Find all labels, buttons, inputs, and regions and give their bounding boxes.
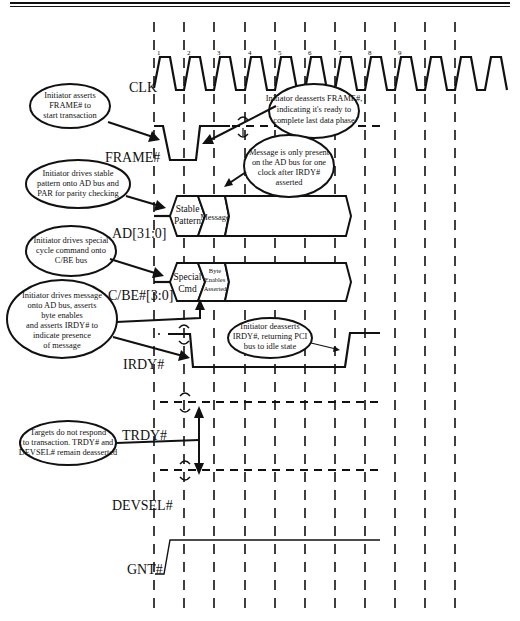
cbe-special-label-2: Cmd: [178, 284, 197, 294]
cbe-byte-label-3: Asserted: [204, 285, 227, 292]
svg-text:8: 8: [368, 49, 372, 57]
svg-text:2: 2: [187, 49, 191, 57]
svg-text:Targets do not respond: Targets do not respond: [30, 428, 107, 437]
frame-label: FRAME#: [105, 150, 160, 165]
svg-text:indicating it's ready to: indicating it's ready to: [277, 105, 351, 114]
svg-text:Initiator asserts: Initiator asserts: [44, 91, 95, 100]
cbe-label: C/BE#[3:0]: [108, 288, 173, 303]
ad-hold-box: [225, 196, 351, 236]
svg-text:5: 5: [278, 49, 282, 57]
cbe-special-label-1: Special: [174, 272, 202, 282]
svg-text:Initiator drives stable: Initiator drives stable: [42, 169, 113, 178]
svg-text:of message: of message: [43, 341, 81, 350]
callout-targets: Targets do not respond to transaction. T…: [19, 406, 204, 475]
cbe-hold-box: [225, 263, 351, 301]
svg-text:Message is only present: Message is only present: [249, 148, 330, 157]
ad-stable-label-2: Pattern: [174, 216, 201, 226]
svg-text:6: 6: [308, 49, 312, 57]
svg-text:and asserts IRDY# to: and asserts IRDY# to: [26, 321, 98, 330]
cbe-byte-label-1: Byte: [209, 267, 221, 274]
svg-text:pattern onto AD bus and: pattern onto AD bus and: [37, 179, 120, 188]
gnt-waveform: [155, 540, 380, 574]
svg-text:FRAME# to: FRAME# to: [49, 101, 91, 110]
callout-message-present: Message is only present on the AD bus fo…: [224, 135, 334, 197]
svg-text:to transaction. TRDY# and: to transaction. TRDY# and: [23, 438, 114, 447]
svg-text:start transaction: start transaction: [43, 111, 97, 120]
devsel-waveform: [160, 461, 380, 480]
ad-stable-label-1: Stable: [176, 204, 200, 214]
svg-text:7: 7: [338, 49, 342, 57]
svg-text:on the AD bus for one: on the AD bus for one: [252, 158, 326, 167]
svg-text:onto AD bus, asserts: onto AD bus, asserts: [28, 301, 97, 310]
svg-text:1: 1: [157, 49, 161, 57]
svg-text:DEVSEL# remain deasserted: DEVSEL# remain deasserted: [19, 448, 118, 457]
ad-label: AD[31:0]: [112, 226, 166, 241]
svg-text:indicate presence: indicate presence: [33, 331, 91, 340]
svg-text:Initiator deasserts: Initiator deasserts: [240, 322, 299, 331]
devsel-label: DEVSEL#: [112, 498, 173, 513]
clk-label: CLK: [129, 80, 157, 95]
timing-diagram: 1 2 3 4 5 6 7 8 9 CLK FRAME# Stable Patt…: [0, 0, 520, 621]
svg-text:cycle command onto: cycle command onto: [36, 246, 106, 255]
svg-text:Initiator drives special: Initiator drives special: [34, 236, 110, 245]
clock-edge-numbers: 1 2 3 4 5 6 7 8 9: [157, 49, 402, 57]
svg-text:bus to idle state: bus to idle state: [244, 342, 297, 351]
svg-text:complete last data phase: complete last data phase: [273, 116, 355, 125]
svg-text:3: 3: [217, 49, 221, 57]
svg-text:C/BE bus: C/BE bus: [55, 256, 87, 265]
svg-text:4: 4: [248, 49, 252, 57]
callout-ad-stable: Initiator drives stable pattern onto AD …: [26, 160, 166, 211]
svg-text:IRDY#, returning PCI: IRDY#, returning PCI: [233, 332, 308, 341]
svg-text:asserted: asserted: [276, 178, 304, 187]
svg-text:Initiator deasserts FRAME#,: Initiator deasserts FRAME#,: [266, 94, 363, 103]
svg-text:9: 9: [398, 49, 402, 57]
svg-text:Initiator drives message: Initiator drives message: [22, 291, 102, 300]
svg-text:clock after IRDY#: clock after IRDY#: [258, 168, 321, 177]
irdy-label: IRDY#: [123, 357, 164, 372]
ad-message-label: Message: [200, 212, 230, 222]
callout-irdy-deassert: Initiator deasserts IRDY#, returning PCI…: [228, 318, 340, 358]
gnt-label: GNT#: [127, 562, 163, 577]
trdy-waveform: [160, 393, 380, 412]
svg-text:byte enables: byte enables: [41, 311, 83, 320]
cbe-byte-label-2: Enables: [205, 276, 226, 283]
cbe-bus-waveform: [154, 263, 351, 301]
svg-text:PAR for parity checking: PAR for parity checking: [37, 189, 119, 198]
